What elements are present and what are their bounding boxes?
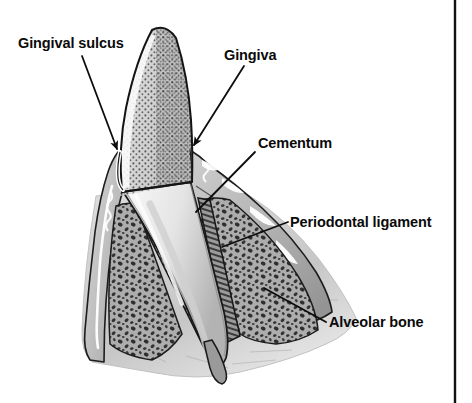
label-gingival-sulcus: Gingival sulcus (18, 35, 124, 51)
tooth-anatomy-diagram: Gingival sulcus Gingiva Cementum Periodo… (0, 0, 472, 403)
figure-root: Gingival sulcus Gingiva Cementum Periodo… (0, 0, 472, 403)
leader-gingiva (194, 66, 244, 145)
label-cementum: Cementum (258, 135, 332, 151)
label-alveolar-bone: Alveolar bone (329, 314, 424, 330)
leader-gingival-sulcus (82, 56, 117, 149)
illustration-group (82, 20, 356, 384)
label-gingiva: Gingiva (224, 47, 278, 63)
label-periodontal-ligament: Periodontal ligament (290, 214, 432, 230)
